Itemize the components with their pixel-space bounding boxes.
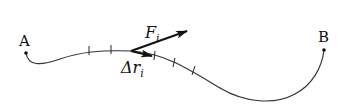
label-point-b: B <box>318 28 329 46</box>
path-curve <box>26 50 324 101</box>
point-a-dot <box>24 51 28 55</box>
label-point-a: A <box>18 32 30 50</box>
label-displacement: Δri <box>120 58 144 80</box>
displacement-symbol: Δr <box>120 58 142 77</box>
work-along-path-diagram: A B Fi Δri <box>0 0 354 111</box>
force-symbol: F <box>144 23 157 42</box>
label-force: Fi <box>144 23 160 45</box>
point-b-dot <box>322 48 326 52</box>
force-subscript: i <box>156 32 160 45</box>
displacement-subscript: i <box>140 67 144 80</box>
